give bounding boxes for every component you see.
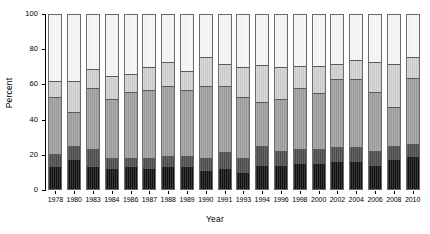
bar-1996 xyxy=(274,14,288,190)
bar-segment xyxy=(87,69,99,88)
bar-segment xyxy=(313,93,325,149)
x-tick-mark xyxy=(300,191,301,194)
bar-segment xyxy=(219,15,231,64)
bar-segment xyxy=(256,146,268,165)
bar-segment xyxy=(369,151,381,165)
bar-segment xyxy=(181,156,193,166)
bar-segment xyxy=(350,15,362,60)
bar-segment xyxy=(200,170,212,189)
bar-segment xyxy=(388,159,400,189)
bar-segment xyxy=(68,81,80,112)
bar-segment xyxy=(219,64,231,87)
bar-segment xyxy=(49,97,61,154)
bar-segment xyxy=(162,166,174,189)
bar-segment xyxy=(125,92,137,158)
bar-segment xyxy=(125,74,137,91)
bar-segment xyxy=(143,90,155,158)
bar-segment xyxy=(200,158,212,170)
bar-segment xyxy=(143,67,155,90)
x-tick-mark xyxy=(225,191,226,194)
y-tick-mark xyxy=(42,49,45,50)
bar-segment xyxy=(407,78,419,144)
bar-segment xyxy=(331,15,343,64)
bar-segment xyxy=(106,158,118,168)
x-tick-mark xyxy=(375,191,376,194)
bar-segment xyxy=(294,88,306,149)
bar-segment xyxy=(219,86,231,152)
x-tick-mark xyxy=(413,191,414,194)
bar-segment xyxy=(350,60,362,79)
bar-segment xyxy=(256,15,268,65)
bar-segment xyxy=(388,64,400,108)
bar-1993 xyxy=(236,14,250,190)
bar-segment xyxy=(294,66,306,89)
bar-segment xyxy=(125,15,137,74)
bar-segment xyxy=(388,15,400,64)
y-tick-label: 80 xyxy=(8,45,38,53)
x-tick-mark xyxy=(262,191,263,194)
bar-segment xyxy=(369,15,381,62)
bar-segment xyxy=(181,166,193,189)
bar-segment xyxy=(275,67,287,98)
bar-segment xyxy=(87,149,99,166)
bar-segment xyxy=(294,163,306,189)
bar-segment xyxy=(87,15,99,69)
bar-segment xyxy=(388,146,400,160)
x-tick-label: 2010 xyxy=(400,196,426,203)
bar-segment xyxy=(407,57,419,78)
bar-1990 xyxy=(199,14,213,190)
bar-segment xyxy=(106,99,118,158)
bar-segment xyxy=(68,146,80,160)
y-tick-label: 40 xyxy=(8,116,38,124)
bar-2008 xyxy=(387,14,401,190)
y-tick-label: 0 xyxy=(8,186,38,194)
bar-segment xyxy=(237,67,249,97)
x-tick-mark xyxy=(112,191,113,194)
bar-segment xyxy=(143,158,155,168)
bar-segment xyxy=(369,165,381,189)
bar-segment xyxy=(49,166,61,189)
y-tick-label: 100 xyxy=(8,10,38,18)
bar-segment xyxy=(181,71,193,90)
y-tick-label: 20 xyxy=(8,151,38,159)
bar-segment xyxy=(68,15,80,81)
bar-1984 xyxy=(105,14,119,190)
bar-segment xyxy=(256,65,268,102)
bar-segment xyxy=(313,149,325,163)
bar-1994 xyxy=(255,14,269,190)
bar-segment xyxy=(331,64,343,80)
bar-segment xyxy=(369,92,381,151)
bar-segment xyxy=(87,166,99,189)
bar-segment xyxy=(237,15,249,67)
bar-segment xyxy=(49,81,61,97)
bar-segment xyxy=(350,161,362,189)
bar-segment xyxy=(313,15,325,65)
bar-1998 xyxy=(293,14,307,190)
x-tick-mark xyxy=(131,191,132,194)
bar-segment xyxy=(200,86,212,157)
bar-segment xyxy=(143,168,155,189)
y-tick-mark xyxy=(42,84,45,85)
bar-segment xyxy=(275,99,287,151)
bar-segment xyxy=(331,79,343,147)
bar-segment xyxy=(237,97,249,158)
bar-segment xyxy=(162,15,174,62)
bar-segment xyxy=(200,57,212,87)
y-tick-mark xyxy=(42,190,45,191)
bar-segment xyxy=(162,156,174,166)
bar-segment xyxy=(181,15,193,71)
bar-1983 xyxy=(86,14,100,190)
bar-segment xyxy=(125,158,137,167)
bar-segment xyxy=(407,156,419,189)
bar-segment xyxy=(162,62,174,86)
bar-segment xyxy=(275,151,287,165)
bar-segment xyxy=(256,165,268,189)
x-tick-mark xyxy=(281,191,282,194)
x-tick-mark xyxy=(74,191,75,194)
x-tick-mark xyxy=(337,191,338,194)
bar-2004 xyxy=(349,14,363,190)
bar-segment xyxy=(143,15,155,67)
x-tick-mark xyxy=(187,191,188,194)
x-tick-mark xyxy=(149,191,150,194)
bar-segment xyxy=(106,76,118,99)
